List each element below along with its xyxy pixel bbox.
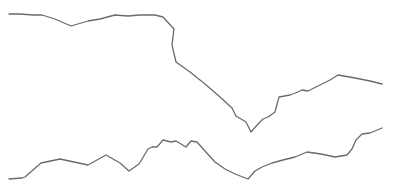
line-chart <box>0 0 394 193</box>
series-line-upper <box>9 14 382 132</box>
chart-canvas <box>0 0 394 193</box>
series-line-lower <box>9 128 382 179</box>
